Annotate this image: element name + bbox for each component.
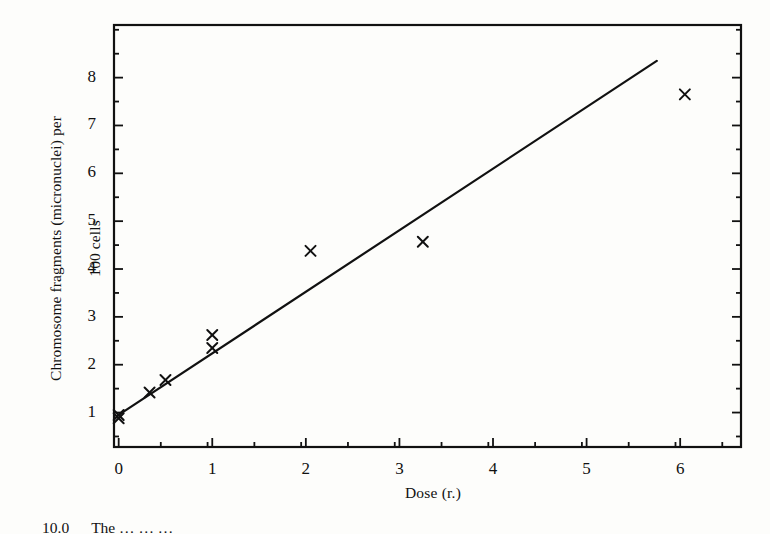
x-tick-label: 6 <box>669 459 691 479</box>
x-axis-title: Dose (r.) <box>0 484 770 502</box>
x-tick-label: 5 <box>576 459 598 479</box>
y-tick-label: 7 <box>74 114 96 134</box>
y-tick-label: 3 <box>74 306 96 326</box>
caption-number: 10.0 <box>42 519 69 534</box>
x-tick-label: 0 <box>108 459 130 479</box>
x-tick-label: 1 <box>201 459 223 479</box>
regression-line <box>119 61 657 415</box>
figure-caption: 10.0The … … … <box>42 519 173 534</box>
y-tick-label: 2 <box>74 354 96 374</box>
data-markers <box>114 89 690 423</box>
y-tick-label: 6 <box>74 162 96 182</box>
data-point-marker <box>207 330 217 340</box>
y-tick-label: 5 <box>74 210 96 230</box>
x-tick-label: 2 <box>295 459 317 479</box>
x-tick-label: 3 <box>388 459 410 479</box>
data-point-marker <box>306 246 316 256</box>
plot-canvas <box>0 0 770 534</box>
x-tick-label: 4 <box>482 459 504 479</box>
fitted-line <box>119 61 657 415</box>
caption-text: The … … … <box>91 519 173 534</box>
y-tick-label: 4 <box>74 258 96 278</box>
x-axis-title-text: Dose (r.) <box>405 484 461 501</box>
data-point-marker <box>680 89 690 99</box>
data-point-marker <box>418 237 428 247</box>
y-tick-label: 8 <box>74 67 96 87</box>
figure-container: Chromosome fragments (micronuclei) per 1… <box>0 0 770 534</box>
y-tick-label: 1 <box>74 402 96 422</box>
